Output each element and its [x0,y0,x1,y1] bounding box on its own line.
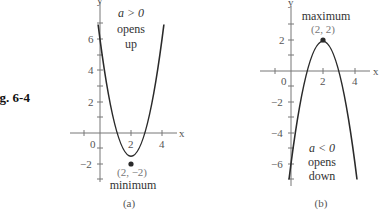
panel-b-x-axis-label: x [373,65,379,77]
panel-b-vertex-point [320,37,325,42]
panel-a-ytick-6: 6 [88,33,94,45]
panel-b-ytick-m4: −4 [271,127,283,139]
panel-a-xtick-4: 4 [159,138,165,150]
panel-a-xtick-2: 2 [128,138,134,150]
panel-b-condition: a < 0 [309,141,335,155]
panel-b-direction: down [309,169,336,183]
panel-b-ytick-2: 2 [279,34,285,46]
panel-b-ytick-m2: −2 [271,96,283,108]
panel-a-condition: a > 0 [118,6,144,20]
panel-b-caption: (b) [315,197,328,210]
panel-b-origin-label: 0 [281,75,287,87]
panel-a-opens: opens [117,22,145,36]
panel-b: y x 0 2 4 2 −2 −4 −6 maximum (2, 2) a < … [260,0,379,210]
panel-a: y x 0 2 4 6 4 2 −2 a > 0 opens up (2, −2… [70,0,185,210]
panel-b-vertex-label: (2, 2) [311,23,335,36]
panel-a-ytick-2: 2 [88,96,94,108]
panel-a-y-axis-label: y [97,0,103,6]
panel-b-ytick-m6: −6 [271,158,283,170]
panel-a-origin-label: 0 [90,138,96,150]
panel-a-ytick-m2: −2 [80,158,92,170]
panel-b-vertex-kind: maximum [302,9,351,23]
panel-b-xtick-4: 4 [352,75,358,87]
panel-b-y-axis-label: y [288,0,294,8]
panel-a-ytick-4: 4 [88,64,94,76]
panel-b-opens: opens [308,155,336,169]
panel-a-x-axis-label: x [179,127,185,139]
panel-a-caption: (a) [123,197,136,210]
panel-b-xtick-2: 2 [320,75,326,87]
figure-canvas: y x 0 2 4 6 4 2 −2 a > 0 opens up (2, −2… [0,0,384,210]
panel-a-direction: up [125,37,137,51]
panel-a-vertex-kind: minimum [110,178,157,192]
